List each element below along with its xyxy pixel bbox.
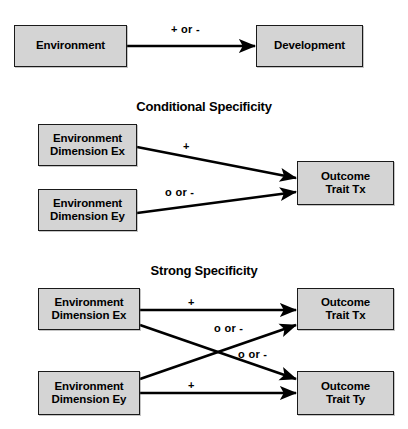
node-label-line: Outcome — [321, 380, 370, 394]
node-label-line: Dimension Ey — [52, 393, 127, 407]
node-label-line: Environment — [54, 296, 123, 310]
arrow-ey-to-tx — [137, 192, 296, 213]
node-environment[interactable]: Environment — [14, 25, 127, 67]
node-label-line: Development — [274, 39, 345, 53]
node-label-line: Trait Tx — [325, 309, 365, 323]
node-label-line: Environment — [53, 132, 122, 146]
node-label-line: Trait Tx — [325, 183, 365, 197]
node-env-dim-ey-strong[interactable]: Environment Dimension Ey — [38, 371, 140, 415]
diagram-canvas: Environment Development + or - Condition… — [0, 0, 408, 429]
edge-label-ey-to-tx-strong: o or - — [214, 322, 243, 334]
node-label-line: Dimension Ex — [52, 309, 127, 323]
node-label-line: Environment — [54, 380, 123, 394]
arrow-ex-to-tx — [137, 147, 296, 178]
edge-label-ex-to-ty: o or - — [238, 348, 267, 360]
node-label-line: Outcome — [321, 296, 370, 310]
edge-label-ey-to-tx: o or - — [165, 186, 194, 198]
node-label-line: Dimension Ex — [50, 145, 125, 159]
node-label-line: Outcome — [321, 170, 370, 184]
node-label-line: Environment — [36, 39, 105, 53]
section-title-strong: Strong Specificity — [0, 263, 408, 278]
node-env-dim-ey[interactable]: Environment Dimension Ey — [38, 189, 137, 231]
edge-label-ex-to-tx-strong: + — [188, 296, 195, 308]
node-label-line: Trait Ty — [326, 393, 365, 407]
node-outcome-trait-tx[interactable]: Outcome Trait Tx — [297, 161, 394, 205]
edge-label-ey-to-ty: + — [188, 379, 195, 391]
node-label-line: Environment — [53, 197, 122, 211]
node-label-line: Dimension Ey — [50, 210, 125, 224]
node-outcome-trait-ty[interactable]: Outcome Trait Ty — [297, 371, 394, 415]
node-outcome-trait-tx-strong[interactable]: Outcome Trait Tx — [297, 288, 394, 330]
edge-label-ex-to-tx: + — [183, 140, 190, 152]
node-env-dim-ex-strong[interactable]: Environment Dimension Ex — [38, 288, 140, 330]
node-env-dim-ex[interactable]: Environment Dimension Ex — [38, 124, 137, 166]
node-development[interactable]: Development — [256, 25, 363, 67]
section-title-conditional: Conditional Specificity — [0, 99, 408, 114]
edge-label-env-to-dev: + or - — [171, 23, 200, 35]
